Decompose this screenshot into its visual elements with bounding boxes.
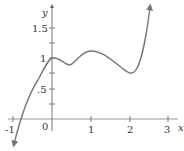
y-axis-label: y: [41, 7, 48, 18]
x-tick-label-1: 1: [88, 124, 94, 135]
x-tick-label-2: 2: [127, 124, 133, 135]
function-plot: -1 0 1 2 3 .5 1 1.5 y x: [0, 0, 184, 151]
x-axis-label: x: [178, 122, 184, 133]
x-tick-label-3: 3: [164, 124, 170, 135]
x-tick-label-neg1: -1: [5, 124, 15, 135]
y-tick-label-1.5: 1.5: [32, 23, 48, 34]
y-tick-label-1: 1: [40, 53, 46, 64]
y-tick-label-0.5: .5: [37, 84, 47, 95]
x-tick-label-0: 0: [42, 121, 48, 132]
